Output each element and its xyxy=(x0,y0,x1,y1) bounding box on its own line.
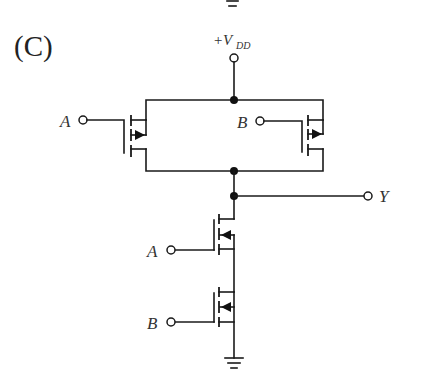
nmos-a-body-arrow xyxy=(221,230,231,240)
input-a-terminal-pmos xyxy=(79,116,87,124)
input-a-terminal-nmos xyxy=(167,246,175,254)
input-b-label-nmos: B xyxy=(147,314,158,333)
vdd-label-subscript: DD xyxy=(235,40,251,51)
pmos-transistor-b: B xyxy=(237,113,323,156)
vdd-label: +V DD xyxy=(213,32,251,51)
output-y-terminal xyxy=(364,192,372,200)
vdd-label-main: +V xyxy=(213,32,234,48)
nmos-transistor-b: B xyxy=(147,287,234,358)
vdd-terminal xyxy=(230,54,238,62)
ground-icon-top-remnant xyxy=(227,1,238,6)
pmos-b-body-arrow xyxy=(312,129,322,139)
pmos-transistor-a: A xyxy=(59,112,146,157)
nmos-transistor-a: A xyxy=(146,214,234,292)
panel-label: (C) xyxy=(14,30,53,63)
output-y-label: Y xyxy=(379,187,390,206)
input-b-label-pmos: B xyxy=(237,113,248,132)
pmos-a-body-arrow xyxy=(135,130,145,140)
vdd-junction xyxy=(230,96,238,104)
nmos-b-body-arrow xyxy=(221,302,231,312)
circuit-figure: (C) +V DD A xyxy=(0,0,429,372)
input-b-terminal-pmos xyxy=(256,117,264,125)
input-b-terminal-nmos xyxy=(167,318,175,326)
input-a-label-pmos: A xyxy=(59,112,71,131)
input-a-label-nmos: A xyxy=(146,242,158,261)
ground-icon xyxy=(225,358,243,368)
